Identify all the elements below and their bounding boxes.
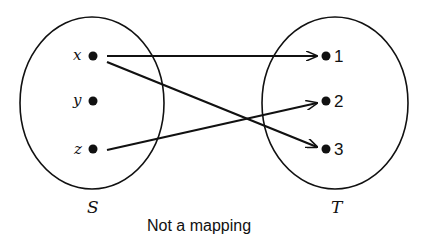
dot-1 [322, 52, 331, 61]
label-x: x [73, 46, 82, 64]
set-s-label: S [87, 197, 99, 217]
mapping-diagram: x y z 1 2 3 S T Not a mapping [0, 0, 433, 242]
label-1: 1 [334, 47, 343, 66]
dot-x [89, 52, 98, 61]
label-3: 3 [334, 140, 343, 159]
arrow-x-to-3 [107, 62, 317, 147]
dot-z [89, 145, 98, 154]
dot-3 [322, 145, 331, 154]
dot-2 [322, 97, 331, 106]
label-z: z [73, 140, 82, 158]
label-2: 2 [334, 92, 343, 111]
caption: Not a mapping [147, 217, 251, 234]
dot-y [89, 97, 98, 106]
arrow-z-to-2 [107, 103, 317, 150]
label-y: y [72, 91, 82, 109]
set-t-label: T [331, 197, 344, 217]
